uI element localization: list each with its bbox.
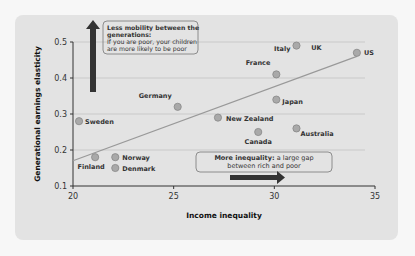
data-point [174,103,181,110]
data-point [293,125,300,132]
point-label: Finland [78,163,106,171]
point-label: Norway [122,154,150,162]
annotation-inequality: More inequality: a large gap [214,154,313,162]
point-label: US [364,49,374,57]
point-label: New Zealand [226,115,274,123]
point-label: Denmark [122,165,156,173]
point-label: Canada [245,138,272,146]
data-point [353,49,360,56]
data-point [112,154,119,161]
data-point [273,71,280,78]
point-label: UK [311,44,322,52]
y-tick-label: 0.4 [54,74,67,83]
y-tick-label: 0.2 [54,146,67,155]
x-axis-label: Income inequality [186,211,262,220]
data-point [214,114,221,121]
y-axis-label: Generational earnings elasticity [33,46,42,182]
x-tick-label: 35 [370,192,380,201]
chart-panel [15,15,398,240]
y-tick-label: 0.1 [54,182,67,191]
point-label: Japan [281,98,303,106]
point-label: Italy [274,45,291,53]
data-point [75,118,82,125]
x-tick-label: 20 [68,192,78,201]
point-label: France [246,59,271,67]
chart: 0.10.20.30.40.520253035Income inequality… [0,0,415,256]
x-tick-label: 30 [269,192,279,201]
data-point [255,128,262,135]
svg-text:between rich and poor: between rich and poor [227,162,301,170]
data-point [112,164,119,171]
y-tick-label: 0.5 [54,38,67,47]
data-point [92,154,99,161]
point-label: Germany [139,92,173,100]
point-label: Sweden [85,118,114,126]
point-label: Australia [300,130,333,138]
data-point [293,42,300,49]
y-tick-label: 0.3 [54,110,67,119]
x-tick-label: 25 [169,192,179,201]
data-point [273,96,280,103]
annotation-mobility: Less mobility between thegenerations:If … [107,24,199,53]
